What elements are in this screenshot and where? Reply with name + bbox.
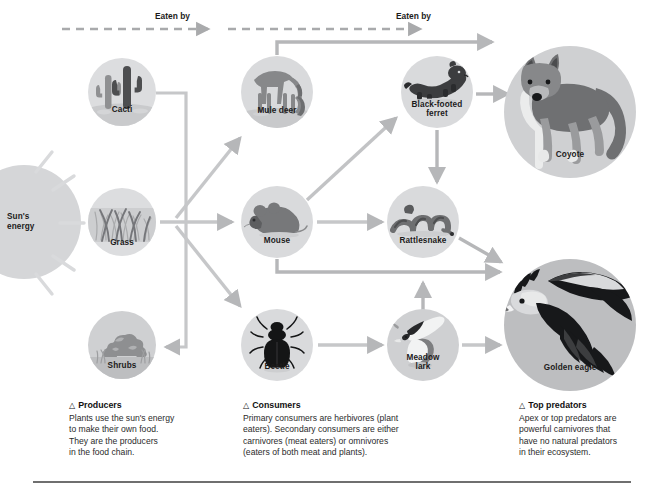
link-cacti-to-shrubs xyxy=(156,93,186,347)
node-beetle: Beetle xyxy=(241,309,313,381)
link-rattlesnake-to-coyote xyxy=(459,238,501,262)
flow-label-eaten-by-1: Eaten by xyxy=(155,11,190,21)
triangle-bullet-icon: △ xyxy=(69,400,75,411)
caption-line: (eaters of both meat and plants). xyxy=(243,447,483,458)
link-muledeer-to-coyote xyxy=(277,42,492,55)
caption-line: Apex or top predators are xyxy=(519,413,664,424)
node-label-grass: Grass xyxy=(88,238,156,247)
cacti-icon xyxy=(88,58,156,126)
caption-line: Plants use the sun's energy xyxy=(69,413,234,424)
caption-top-predators: △Top predators Apex or top predators are… xyxy=(519,400,664,459)
node-coyote: Coyote xyxy=(504,46,636,178)
node-label-sun-line1: Sun's xyxy=(7,212,81,221)
caption-line: eaters). Secondary consumers are either xyxy=(243,424,483,435)
node-label-mouse: Mouse xyxy=(241,236,313,245)
triangle-bullet-icon: △ xyxy=(519,400,525,411)
food-web-diagram: Sun's energy Cacti xyxy=(0,0,664,493)
node-rattlesnake: Rattlesnake xyxy=(387,186,459,258)
caption-line: powerful carnivores that xyxy=(519,424,664,435)
rattlesnake-icon xyxy=(387,186,459,258)
node-label-meadow-lark-line1: Meadow xyxy=(387,353,459,362)
node-mouse: Mouse xyxy=(241,186,313,258)
caption-line: They are the producers xyxy=(69,436,234,447)
link-mouse-to-ferret xyxy=(307,118,396,200)
bottom-divider xyxy=(33,481,631,483)
link-grass-fan xyxy=(160,138,240,306)
caption-line: in the food chain. xyxy=(69,447,234,458)
node-label-black-footed-ferret-line1: Black-footed xyxy=(401,100,473,109)
node-mule-deer: Mule deer xyxy=(241,56,313,128)
caption-producers: △Producers Plants use the sun's energy t… xyxy=(69,400,234,459)
caption-line: carnivores (meat eaters) or omnivores xyxy=(243,436,483,447)
caption-consumers: △Consumers Primary consumers are herbivo… xyxy=(243,400,483,459)
node-label-mule-deer: Mule deer xyxy=(241,106,313,115)
flow-label-eaten-by-2: Eaten by xyxy=(396,11,431,21)
node-meadow-lark: Meadow lark xyxy=(387,309,459,381)
node-label-golden-eagle: Golden eagle xyxy=(504,363,636,372)
node-label-cacti: Cacti xyxy=(88,105,156,114)
caption-heading-top-predators: △Top predators xyxy=(519,400,664,411)
node-label-black-footed-ferret-line2: ferret xyxy=(401,109,473,118)
mouse-icon xyxy=(241,186,313,258)
node-label-coyote: Coyote xyxy=(504,150,636,159)
link-mouse-to-goldeneagle xyxy=(277,259,500,272)
caption-line: in their ecosystem. xyxy=(519,447,664,458)
node-shrubs: Shrubs xyxy=(88,311,156,379)
node-cacti: Cacti xyxy=(88,58,156,126)
caption-line: Primary consumers are herbivores (plant xyxy=(243,413,483,424)
node-label-beetle: Beetle xyxy=(241,362,313,371)
node-golden-eagle: Golden eagle xyxy=(504,259,636,391)
caption-line: to make their own food. xyxy=(69,424,234,435)
node-label-meadow-lark-line2: lark xyxy=(387,362,459,371)
mule-deer-icon xyxy=(241,56,313,128)
caption-heading-producers: △Producers xyxy=(69,400,234,411)
caption-heading-consumers: △Consumers xyxy=(243,400,483,411)
node-black-footed-ferret: Black-footed ferret xyxy=(401,56,473,128)
node-label-shrubs: Shrubs xyxy=(88,361,156,370)
node-label-rattlesnake: Rattlesnake xyxy=(387,236,459,245)
triangle-bullet-icon: △ xyxy=(243,400,249,411)
node-label-sun-line2: energy xyxy=(7,222,81,231)
node-grass: Grass xyxy=(88,188,156,256)
caption-line: have no natural predators xyxy=(519,436,664,447)
